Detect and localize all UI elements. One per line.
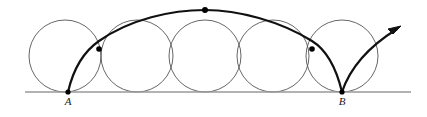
rolling-circle-4 <box>237 20 309 92</box>
label-point-b: B <box>339 95 346 107</box>
rolling-circle-1 <box>29 20 101 92</box>
cycloid-arc-main <box>68 10 342 92</box>
figure-container: A B <box>0 0 427 117</box>
cycloid-diagram-svg: A B <box>0 0 427 117</box>
apex-point <box>202 7 208 13</box>
label-point-a: A <box>64 95 72 107</box>
rolling-circle-5 <box>306 20 378 92</box>
curve-point-right <box>309 46 315 52</box>
point-a <box>65 89 70 94</box>
curve-point-left <box>96 46 102 52</box>
rolling-circle-2 <box>101 20 173 92</box>
point-b <box>339 89 344 94</box>
cycloid-arc-outgoing <box>342 29 397 92</box>
rolling-circles-group <box>29 20 378 92</box>
rolling-circle-3 <box>169 20 241 92</box>
